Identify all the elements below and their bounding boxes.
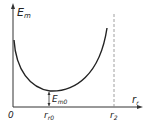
min-energy-label: Em0 xyxy=(52,94,68,105)
limit-label: r2 xyxy=(110,110,118,121)
min-x-label: rr0 xyxy=(44,110,54,121)
y-axis-label: Em xyxy=(17,6,31,20)
origin-label: 0 xyxy=(8,110,14,120)
y-axis-arrow-icon xyxy=(11,3,15,9)
energy-diagram: Em rr 0 rr0 r2 Em0 xyxy=(0,0,146,127)
energy-curve xyxy=(14,28,107,91)
x-axis-label: rr xyxy=(132,94,139,106)
min-arrow-down-icon xyxy=(48,103,51,106)
min-arrow-up-icon xyxy=(48,92,51,95)
